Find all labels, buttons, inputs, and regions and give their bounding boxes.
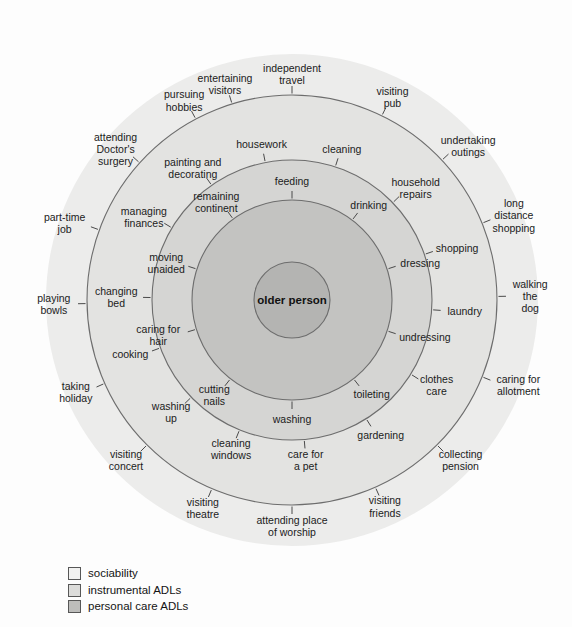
ring-label-instrumental: painting anddecorating <box>164 156 221 180</box>
ring-label-personal: remainingcontinent <box>193 190 239 214</box>
legend: sociabilityinstrumental ADLspersonal car… <box>68 567 188 613</box>
ring-label-instrumental: cleaningwindows <box>210 437 251 461</box>
ring-label-sociability: attendingDoctor'ssurgery <box>94 131 137 167</box>
ring-label-personal: undressing <box>399 331 451 343</box>
ring-label-personal: movingunaided <box>147 251 185 275</box>
ring-label-instrumental: gardening <box>357 429 404 441</box>
ring-label-instrumental: managingfinances <box>121 205 167 229</box>
legend-item: sociability <box>68 567 188 580</box>
legend-swatch <box>68 584 81 597</box>
ring-label-personal: dressing <box>400 257 440 269</box>
ring-label-instrumental: shopping <box>436 242 479 254</box>
ring-label-instrumental: cooking <box>112 348 148 360</box>
legend-label: sociability <box>88 567 138 580</box>
ring-label-personal: drinking <box>350 199 387 211</box>
ring-label-personal: toileting <box>354 388 390 400</box>
ring-label-sociability: caring forallotment <box>496 373 540 397</box>
center-label: older person <box>257 294 327 306</box>
ring-label-sociability: collectingpension <box>439 448 483 472</box>
ring-label-personal: washing <box>272 413 312 425</box>
legend-item: instrumental ADLs <box>68 584 188 597</box>
ring-label-sociability: visitingtheatre <box>187 496 220 520</box>
diagram-stage: feedingdrinkingdressingundressingtoileti… <box>0 0 572 627</box>
legend-label: instrumental ADLs <box>88 584 181 597</box>
ring-label-instrumental: laundry <box>448 305 483 317</box>
ring-label-sociability: visitingconcert <box>109 448 144 472</box>
legend-swatch <box>68 567 81 580</box>
ring-label-instrumental: cleaning <box>322 143 361 155</box>
ring-label-sociability: pursuinghobbies <box>164 88 204 112</box>
legend-item: personal care ADLs <box>68 600 188 613</box>
concentric-rings-diagram: feedingdrinkingdressingundressingtoileti… <box>0 0 572 627</box>
legend-label: personal care ADLs <box>88 600 188 613</box>
legend-swatch <box>68 600 81 613</box>
ring-label-personal: feeding <box>275 175 310 187</box>
ring-label-sociability: takingholiday <box>59 380 93 404</box>
ring-label-instrumental: housework <box>236 138 288 150</box>
ring-label-sociability: visitingfriends <box>369 494 401 518</box>
label-tick <box>433 310 440 311</box>
ring-label-sociability: playingbowls <box>37 292 70 316</box>
